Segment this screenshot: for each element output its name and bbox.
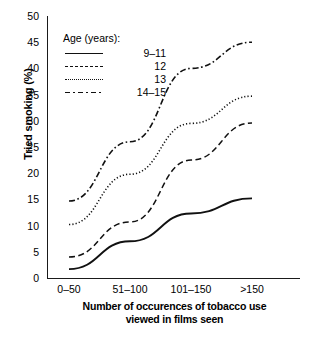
- legend-swatch-line: [65, 66, 103, 67]
- legend-entry: 13: [63, 72, 168, 85]
- y-tick-label: 30: [14, 115, 39, 126]
- legend-entry-label: 13: [105, 73, 168, 85]
- legend-swatch-line: [65, 53, 103, 54]
- y-tick-label: 10: [14, 220, 39, 231]
- legend-entry-label: 14–15: [105, 86, 168, 98]
- legend-entry: 14–15: [63, 85, 168, 98]
- legend-line-swatch: [63, 86, 105, 98]
- x-axis-title-line-2: viewed in films seen: [47, 313, 302, 326]
- legend-entry: 12: [63, 59, 168, 72]
- chart-figure: Tried smoking (%) 05101520253035404550 0…: [0, 0, 322, 337]
- legend-line-swatch: [63, 47, 105, 59]
- legend-title: Age (years):: [63, 32, 168, 44]
- y-tick-label: 50: [14, 11, 39, 22]
- legend-entries: 9–11121314–15: [63, 46, 168, 98]
- legend: Age (years): 9–11121314–15: [63, 32, 168, 98]
- y-tick-label: 25: [14, 142, 39, 153]
- x-tick-label: 0–50: [57, 284, 80, 295]
- y-tick-label: 40: [14, 63, 39, 74]
- y-tick-label: 15: [14, 194, 39, 205]
- x-tick-label: 51–100: [112, 284, 147, 295]
- x-axis-title-line-1: Number of occurences of tobacco use: [47, 300, 302, 313]
- y-tick-label: 35: [14, 89, 39, 100]
- y-tick-label: 5: [14, 246, 39, 257]
- y-tick-label: 20: [14, 168, 39, 179]
- x-axis-title: Number of occurences of tobacco use view…: [47, 300, 302, 326]
- legend-swatch-line: [65, 92, 103, 93]
- y-tick-label: 45: [14, 37, 39, 48]
- legend-line-swatch: [63, 73, 105, 85]
- legend-swatch-line: [65, 79, 103, 80]
- legend-line-swatch: [63, 60, 105, 72]
- legend-entry: 9–11: [63, 46, 168, 59]
- series-line: [69, 123, 252, 257]
- x-axis-line: [47, 278, 300, 279]
- series-line: [69, 198, 252, 269]
- x-tick-label: 101–150: [171, 284, 212, 295]
- legend-entry-label: 9–11: [105, 47, 168, 59]
- legend-entry-label: 12: [105, 60, 168, 72]
- y-tick-label: 0: [14, 273, 39, 284]
- x-tick-label: >150: [240, 284, 264, 295]
